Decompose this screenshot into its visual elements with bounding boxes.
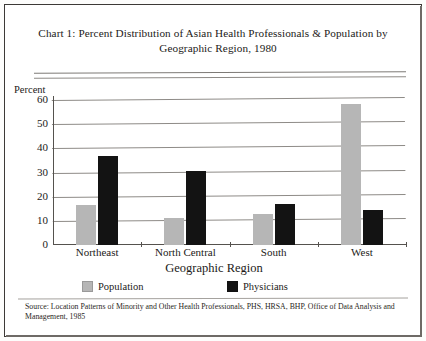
bar-population-south[interactable] [253,214,273,245]
chart-title-line-1: Chart 1: Percent Distribution of Asian H… [22,26,404,41]
chart-page: Chart 1: Percent Distribution of Asian H… [0,0,426,341]
y-axis-tick-labels: 6050403020100 [22,100,48,245]
x-axis-tick-3 [406,242,407,247]
x-axis-label-northeast: Northeast [53,246,141,258]
bar-group-west [318,100,406,245]
source-note: Source: Location Patterns of Minority an… [25,302,407,322]
x-axis-label-north-central: North Central [141,246,229,258]
x-axis-label-west: West [318,246,406,258]
chart-title: Chart 1: Percent Distribution of Asian H… [22,26,404,56]
chart-title-line-2: Geographic Region, 1980 [22,41,404,56]
y-axis-tick-30: 30 [22,167,48,178]
bar-physicians-south[interactable] [275,204,295,245]
bar-physicians-west[interactable] [363,210,383,245]
chart-legend: PopulationPhysicians [22,281,406,295]
y-axis-tick-50: 50 [22,118,48,129]
bar-groups [53,100,406,245]
y-axis-tick-10: 10 [22,215,48,226]
bar-group-northeast [53,100,141,245]
legend-swatch-physicians-icon [227,281,238,292]
bar-group-north-central [141,100,229,245]
legend-item-physicians[interactable]: Physicians [227,281,288,292]
bar-group-south [230,100,318,245]
bar-physicians-northeast[interactable] [98,156,118,245]
x-axis-category-labels: NortheastNorth CentralSouthWest [22,246,406,262]
legend-item-population[interactable]: Population [82,281,144,292]
y-axis-tick-40: 40 [22,142,48,153]
legend-swatch-population-icon [82,281,93,292]
bar-population-northeast[interactable] [76,205,96,245]
y-axis-tick-60: 60 [22,94,48,105]
legend-label-physicians: Physicians [243,281,288,292]
legend-label-population: Population [98,281,144,292]
bar-population-west[interactable] [341,104,361,245]
bar-population-north-central[interactable] [164,218,184,245]
y-axis-tick-20: 20 [22,191,48,202]
bar-physicians-north-central[interactable] [186,171,206,245]
x-axis-title: Geographic Region [22,261,406,276]
plot-area: 6050403020100 [22,100,406,245]
x-axis-label-south: South [230,246,318,258]
